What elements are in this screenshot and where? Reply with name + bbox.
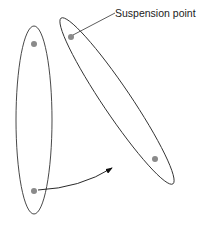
- suspension-point-label: Suspension point: [115, 7, 196, 19]
- diagram-canvas: Suspension point: [0, 0, 203, 227]
- right-bottom-point: [152, 156, 158, 162]
- label-leader-line: [73, 13, 115, 35]
- left-body-outline: [16, 26, 52, 214]
- left-bottom-point: [31, 188, 37, 194]
- left-top-point: [31, 41, 37, 47]
